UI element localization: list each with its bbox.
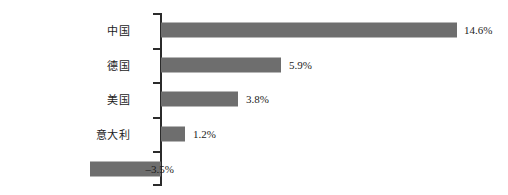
value-label-italy: 1.2%	[193, 128, 216, 140]
bar-china	[161, 23, 457, 38]
value-label-germany: 5.9%	[289, 59, 312, 71]
bar-germany	[161, 57, 281, 72]
bar-italy	[161, 127, 185, 142]
bar-row-china: 中国 14.6%	[0, 13, 508, 48]
value-label-japan: –3.5%	[146, 163, 174, 175]
bar-united-states	[161, 92, 238, 107]
bar-row-italy: 意大利 1.2%	[0, 117, 508, 152]
category-label-china: 中国	[107, 22, 130, 38]
bar-row-united-states: 美国 3.8%	[0, 82, 508, 117]
plot-area: 中国 14.6% 德国 5.9% 美国 3.8% 意大利 1.2% 日本 –3.…	[0, 0, 508, 195]
bar-row-germany: 德国 5.9%	[0, 48, 508, 83]
bar-chart: 中国 14.6% 德国 5.9% 美国 3.8% 意大利 1.2% 日本 –3.…	[0, 0, 508, 195]
category-label-italy: 意大利	[96, 126, 131, 142]
value-label-united-states: 3.8%	[246, 93, 269, 105]
category-label-germany: 德国	[107, 57, 130, 73]
bar-row-japan: 日本 –3.5%	[0, 151, 508, 186]
value-label-china: 14.6%	[464, 24, 492, 36]
category-label-united-states: 美国	[107, 91, 130, 107]
